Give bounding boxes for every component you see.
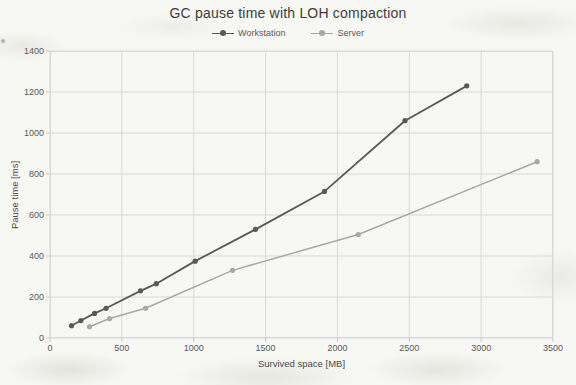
y-tick-label: 1000: [0, 128, 44, 138]
y-tick-label: 600: [0, 210, 44, 220]
y-tick-label: 1200: [0, 87, 44, 97]
x-tick-label: 1500: [244, 343, 288, 353]
x-tick-label: 2500: [387, 343, 431, 353]
workstation-line-marker-icon: [212, 30, 234, 37]
y-tick-label: 400: [0, 251, 44, 261]
server-line-marker-icon: [311, 30, 333, 37]
plot-area: [50, 51, 553, 338]
x-tick-label: 0: [28, 343, 72, 353]
legend-label-workstation: Workstation: [238, 28, 285, 38]
x-tick-label: 3500: [531, 343, 575, 353]
x-tick-label: 3000: [459, 343, 503, 353]
x-tick-label: 1000: [172, 343, 216, 353]
chart-title: GC pause time with LOH compaction: [0, 5, 576, 21]
y-tick-label: 200: [0, 292, 44, 302]
chart-legend: Workstation Server: [0, 28, 576, 38]
x-tick-label: 2000: [315, 343, 359, 353]
y-tick-label: 1400: [0, 46, 44, 56]
y-tick-label: 0: [0, 333, 44, 343]
chart-page: GC pause time with LOH compaction Workst…: [0, 0, 576, 385]
legend-item-workstation: Workstation: [212, 28, 285, 38]
legend-label-server: Server: [337, 28, 364, 38]
chart-canvas: [50, 51, 553, 338]
legend-item-server: Server: [311, 28, 364, 38]
y-tick-label: 800: [0, 169, 44, 179]
x-tick-label: 500: [100, 343, 144, 353]
x-axis-title: Survived space [MB]: [50, 358, 553, 369]
